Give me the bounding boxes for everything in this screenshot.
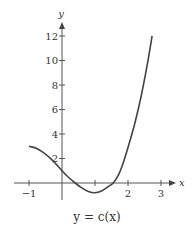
x-tick-label: −1 [22, 188, 37, 199]
y-axis-label: y [57, 8, 64, 19]
x-axis-arrow-icon [169, 180, 176, 186]
y-tick-label: 8 [52, 80, 58, 91]
y-tick-label: 10 [45, 55, 58, 66]
y-tick-label: 12 [45, 31, 58, 42]
x-axis-label: x [179, 177, 185, 188]
chart-caption: y = c(x) [72, 210, 120, 224]
x-tick-label: 2 [125, 188, 131, 199]
x-tick-label: 3 [158, 188, 164, 199]
axes: xy−12324681012 [14, 8, 185, 200]
y-tick-label: 6 [52, 104, 58, 115]
y-tick-label: 4 [52, 129, 58, 140]
y-axis-arrow-icon [59, 22, 65, 29]
chart: xy−12324681012 y = c(x) [0, 0, 196, 227]
